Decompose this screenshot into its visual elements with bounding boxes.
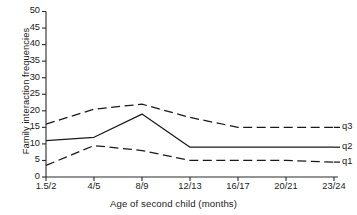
y-tick-label: 25 — [14, 88, 40, 98]
x-tick-label: 8/9 — [118, 181, 166, 191]
x-tick-label: 20/21 — [262, 181, 310, 191]
y-tick-label: 45 — [14, 22, 40, 32]
y-tick-label: 50 — [14, 5, 40, 15]
x-tick-label: 16/17 — [214, 181, 262, 191]
y-tick-label: 0 — [14, 171, 40, 181]
y-tick-label: 15 — [14, 121, 40, 131]
series-line-q1 — [46, 146, 334, 166]
x-tick-label: 4/5 — [70, 181, 118, 191]
x-tick-label: 23/24 — [310, 181, 357, 191]
series-label-q3: q3 — [342, 121, 352, 131]
series-line-q3 — [46, 104, 334, 127]
series-label-q1: q1 — [342, 156, 352, 166]
series-label-q2: q2 — [342, 141, 352, 151]
y-tick-label: 5 — [14, 154, 40, 164]
y-tick-label: 20 — [14, 105, 40, 115]
x-axis-title: Age of second child (months) — [0, 198, 347, 209]
y-tick-label: 40 — [14, 38, 40, 48]
x-tick-label: 1.5/2 — [22, 181, 70, 191]
y-tick-label: 35 — [14, 55, 40, 65]
y-tick-label: 30 — [14, 72, 40, 82]
x-tick-label: 12/13 — [166, 181, 214, 191]
series-line-q2 — [46, 114, 334, 147]
y-tick-label: 10 — [14, 138, 40, 148]
